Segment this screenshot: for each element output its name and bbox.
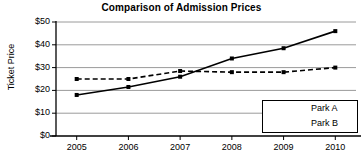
x-tick-label: 2007 bbox=[160, 142, 200, 152]
y-tick-label: $10 bbox=[16, 107, 50, 117]
data-point-marker bbox=[178, 69, 182, 73]
x-tick-label: 2009 bbox=[264, 142, 304, 152]
y-tick-label: $50 bbox=[16, 16, 50, 26]
chart-legend bbox=[262, 100, 358, 133]
data-point-marker bbox=[230, 56, 234, 60]
y-tick-label: $20 bbox=[16, 84, 50, 94]
data-point-marker bbox=[282, 70, 286, 74]
data-series bbox=[75, 29, 338, 97]
data-point-marker bbox=[126, 77, 130, 81]
legend-item-label: Park A bbox=[311, 103, 338, 113]
data-point-marker bbox=[333, 29, 337, 33]
y-tick-label: $40 bbox=[16, 39, 50, 49]
legend-item-label: Park B bbox=[311, 118, 338, 128]
x-tick-label: 2008 bbox=[212, 142, 252, 152]
x-tick-label: 2010 bbox=[315, 142, 355, 152]
data-point-marker bbox=[75, 77, 79, 81]
x-tick-label: 2005 bbox=[57, 142, 97, 152]
data-point-marker bbox=[178, 75, 182, 79]
data-point-marker bbox=[333, 66, 337, 70]
y-tick-label: $30 bbox=[16, 62, 50, 72]
series-line-park-b bbox=[77, 68, 336, 79]
x-tick-label: 2006 bbox=[108, 142, 148, 152]
series-line-park-a bbox=[77, 31, 336, 95]
data-point-marker bbox=[75, 93, 79, 97]
chart-container: Comparison of Admission Prices Ticket Pr… bbox=[0, 0, 363, 167]
y-tick-label: $0 bbox=[16, 130, 50, 140]
data-point-marker bbox=[230, 70, 234, 74]
data-point-marker bbox=[282, 46, 286, 50]
data-point-marker bbox=[126, 85, 130, 89]
